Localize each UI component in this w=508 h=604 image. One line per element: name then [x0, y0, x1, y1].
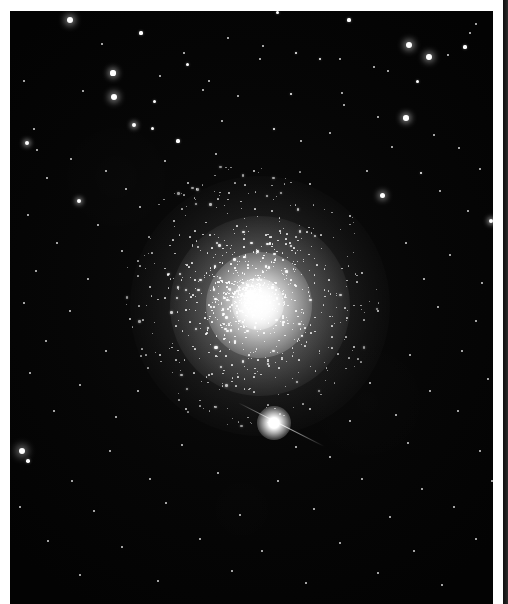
cluster-member-star	[195, 203, 197, 205]
cluster-member-star	[249, 294, 250, 295]
cluster-member-star	[242, 279, 243, 280]
cluster-member-star	[325, 380, 326, 381]
cluster-member-star	[275, 289, 277, 291]
cluster-member-star	[226, 325, 227, 326]
cluster-member-star	[226, 252, 227, 253]
cluster-member-star	[232, 292, 233, 293]
cluster-member-star	[213, 306, 215, 308]
cluster-member-star	[234, 301, 235, 302]
cluster-member-star	[176, 297, 178, 299]
cluster-member-star	[178, 399, 180, 401]
cluster-member-star	[352, 217, 354, 219]
cluster-member-star	[222, 383, 223, 384]
cluster-member-star	[344, 307, 346, 309]
cluster-member-star	[230, 248, 232, 250]
cluster-member-star	[278, 294, 279, 295]
cluster-member-star	[363, 346, 365, 348]
cluster-member-star	[247, 295, 248, 296]
cluster-member-star	[200, 328, 201, 329]
cluster-member-star	[275, 362, 276, 363]
cluster-member-star	[248, 293, 250, 295]
cluster-member-star	[250, 295, 251, 296]
cluster-member-star	[270, 236, 272, 238]
cluster-member-star	[251, 295, 253, 297]
cluster-member-star	[178, 393, 179, 394]
cluster-member-star	[251, 286, 253, 288]
cluster-member-star	[306, 231, 308, 233]
cluster-member-star	[189, 321, 191, 323]
cluster-member-star	[233, 293, 235, 295]
cluster-member-star	[286, 297, 287, 298]
cluster-member-star	[301, 274, 302, 275]
cluster-member-star	[249, 294, 251, 296]
cluster-member-star	[216, 242, 218, 244]
cluster-member-star	[241, 294, 242, 295]
cluster-member-star	[298, 323, 300, 325]
cluster-member-star	[177, 192, 179, 194]
cluster-member-star	[213, 276, 214, 277]
cluster-member-star	[265, 302, 267, 304]
cluster-member-star	[258, 275, 259, 276]
page	[0, 0, 508, 604]
cluster-member-star	[255, 286, 256, 287]
cluster-member-star	[286, 233, 288, 235]
cluster-member-star	[304, 327, 306, 329]
cluster-member-star	[247, 291, 248, 292]
cluster-member-star	[250, 295, 251, 296]
cluster-member-star	[226, 282, 227, 283]
cluster-member-star	[242, 288, 244, 290]
cluster-member-star	[250, 293, 252, 295]
cluster-member-star	[259, 292, 260, 293]
cluster-member-star	[262, 285, 263, 286]
cluster-member-star	[269, 281, 271, 283]
cluster-member-star	[249, 294, 251, 296]
cluster-member-star	[251, 358, 252, 359]
cluster-member-star	[243, 326, 245, 328]
cluster-member-star	[249, 294, 251, 296]
cluster-member-star	[249, 294, 250, 295]
cluster-member-star	[248, 302, 249, 303]
cluster-member-star	[295, 252, 297, 254]
cluster-member-star	[346, 317, 348, 319]
cluster-member-star	[238, 275, 239, 276]
cluster-member-star	[225, 384, 227, 386]
cluster-member-star	[250, 294, 252, 296]
cluster-member-star	[376, 308, 378, 310]
cluster-member-star	[247, 369, 248, 370]
cluster-member-star	[147, 367, 149, 369]
cluster-member-star	[288, 284, 289, 285]
cluster-member-star	[250, 307, 252, 309]
cluster-member-star	[260, 261, 261, 262]
cluster-member-star	[251, 295, 252, 296]
cluster-member-star	[256, 289, 257, 290]
cluster-member-star	[253, 298, 255, 300]
cluster-member-star	[249, 302, 250, 303]
cluster-member-star	[234, 281, 236, 283]
cluster-member-star	[265, 357, 266, 358]
cluster-member-star	[289, 242, 291, 244]
cluster-member-star	[169, 245, 171, 247]
cluster-member-star	[179, 234, 180, 235]
cluster-member-star	[360, 305, 362, 307]
cluster-member-star	[248, 296, 250, 298]
cluster-member-star	[139, 265, 141, 267]
cluster-member-star	[328, 290, 330, 292]
cluster-member-star	[313, 204, 314, 205]
cluster-nucleus	[232, 278, 284, 330]
cluster-member-star	[223, 323, 225, 325]
page-margin-top	[0, 0, 508, 11]
cluster-member-star	[261, 168, 262, 169]
cluster-member-star	[231, 325, 232, 326]
cluster-member-star	[228, 325, 229, 326]
cluster-member-star	[249, 294, 251, 296]
cluster-member-star	[245, 261, 246, 262]
cluster-member-star	[268, 266, 270, 268]
cluster-member-star	[252, 294, 253, 295]
cluster-member-star	[242, 174, 244, 176]
cluster-member-star	[214, 346, 216, 348]
cluster-member-star	[214, 298, 216, 300]
cluster-member-star	[282, 259, 284, 261]
cluster-member-star	[246, 284, 248, 286]
cluster-member-star	[249, 280, 250, 281]
cluster-member-star	[247, 293, 248, 294]
